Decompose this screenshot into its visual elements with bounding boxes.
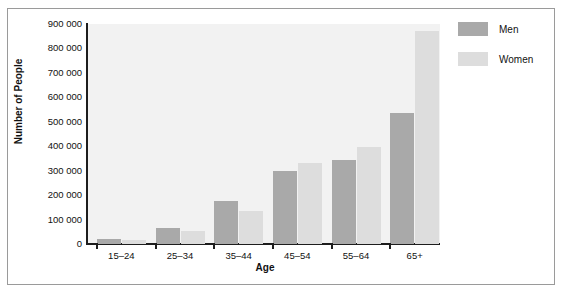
chart-figure: Number of People 0100 000200 000300 0004… xyxy=(0,0,565,296)
y-axis-tick-label: 200 000 xyxy=(4,189,82,200)
y-axis-tick-label: 300 000 xyxy=(4,165,82,176)
y-axis-tick-label: 800 000 xyxy=(4,42,82,53)
x-axis-tick-mark xyxy=(272,243,274,249)
bar-women-65+ xyxy=(415,31,439,244)
chart-legend: MenWomen xyxy=(458,22,533,82)
y-axis-tick-label: 500 000 xyxy=(4,116,82,127)
legend-item-women: Women xyxy=(458,52,533,66)
y-axis-line xyxy=(86,23,88,245)
x-axis-tick-mark xyxy=(155,243,157,249)
y-axis-tick-label: 700 000 xyxy=(4,67,82,78)
y-axis-tick-label: 600 000 xyxy=(4,91,82,102)
y-axis-tick-label: 400 000 xyxy=(4,140,82,151)
x-axis-tick-label: 65+ xyxy=(380,250,450,261)
x-axis-title: Age xyxy=(95,262,435,273)
plot-area xyxy=(88,24,440,244)
y-axis-ticks: 0100 000200 000300 000400 000500 000600 … xyxy=(0,0,82,296)
bar-men-35–44 xyxy=(214,201,238,244)
bar-women-35–44 xyxy=(239,211,263,244)
bar-men-65+ xyxy=(390,113,414,244)
x-axis-tick-mark xyxy=(331,243,333,249)
legend-label: Men xyxy=(499,24,518,35)
bar-women-55–64 xyxy=(357,147,381,244)
bar-men-45–54 xyxy=(273,171,297,244)
bar-men-25–34 xyxy=(156,228,180,244)
bar-men-55–64 xyxy=(332,160,356,244)
legend-swatch-men xyxy=(458,22,488,36)
bar-women-15–24 xyxy=(122,240,146,244)
bar-women-25–34 xyxy=(181,231,205,244)
bar-women-45–54 xyxy=(298,163,322,244)
bar-men-15–24 xyxy=(97,239,121,244)
legend-item-men: Men xyxy=(458,22,533,36)
y-axis-tick-label: 100 000 xyxy=(4,214,82,225)
x-axis-tick-mark xyxy=(389,243,391,249)
x-axis-tick-mark xyxy=(96,243,98,249)
y-axis-tick-label: 0 xyxy=(4,238,82,249)
y-axis-tick-label: 900 000 xyxy=(4,18,82,29)
x-axis-tick-mark xyxy=(213,243,215,249)
legend-label: Women xyxy=(499,54,533,65)
legend-swatch-women xyxy=(458,52,488,66)
